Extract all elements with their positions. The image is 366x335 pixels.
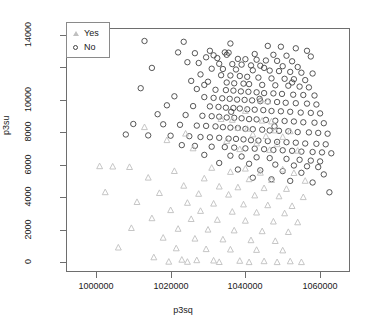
y-axis-tick xyxy=(60,100,66,101)
y-axis-tick xyxy=(60,132,66,133)
legend[interactable]: Yes No xyxy=(66,22,110,58)
x-axis-tick-label: 1040000 xyxy=(210,281,280,291)
plot-area xyxy=(66,28,350,272)
legend-item-no[interactable]: No xyxy=(70,40,106,54)
x-axis-tick xyxy=(320,272,321,278)
y-axis-tick xyxy=(60,67,66,68)
y-axis-tick xyxy=(60,197,66,198)
circle-marker-icon xyxy=(70,41,83,54)
x-axis-tick-label: 1000000 xyxy=(61,281,131,291)
triangle-marker-icon xyxy=(70,27,83,40)
legend-label-no: No xyxy=(83,43,96,52)
x-axis-tick xyxy=(245,272,246,278)
legend-label-yes: Yes xyxy=(83,29,99,38)
scatter-plot-figure: 0200040006000800010000140001000000102000… xyxy=(0,0,366,335)
y-axis-tick-label: 14000 xyxy=(24,8,33,62)
x-axis-title: p3sq xyxy=(0,305,366,315)
x-axis-tick xyxy=(171,272,172,278)
y-axis-tick xyxy=(60,262,66,263)
x-axis-tick-label: 1020000 xyxy=(136,281,206,291)
x-axis-tick xyxy=(96,272,97,278)
x-axis-tick-label: 1060000 xyxy=(285,281,355,291)
y-axis-tick xyxy=(60,230,66,231)
y-axis-tick xyxy=(60,165,66,166)
y-axis-title: p3su xyxy=(1,115,11,135)
y-axis-tick-label: 10000 xyxy=(24,73,33,127)
legend-item-yes[interactable]: Yes xyxy=(70,26,106,40)
